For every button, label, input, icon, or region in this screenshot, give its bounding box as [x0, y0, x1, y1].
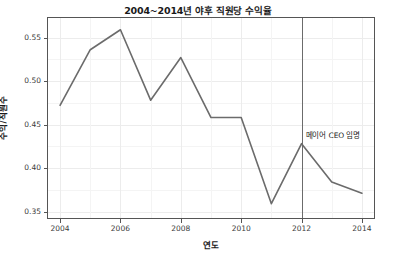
- y-axis-tick-label: 0.40: [24, 163, 41, 172]
- x-axis-tick-mark: [60, 219, 61, 223]
- y-axis-tick-label: 0.50: [24, 76, 41, 85]
- y-axis-tick-mark: [44, 212, 48, 213]
- y-axis-tick-mark: [44, 38, 48, 39]
- chart-title: 2004~2014년 야후 직원당 수익율: [0, 3, 396, 17]
- x-axis-title: 연도: [47, 238, 375, 250]
- y-axis-tick-mark: [44, 168, 48, 169]
- reference-vline: [302, 18, 303, 218]
- y-axis-tick-label: 0.55: [24, 33, 41, 42]
- chart-screenshot: 2004~2014년 야후 직원당 수익율 메이어 CEO 임명 0.350.4…: [0, 0, 396, 260]
- x-axis-tick-label: 2006: [111, 224, 130, 233]
- x-axis-tick-label: 2014: [352, 224, 371, 233]
- y-axis-tick-label: 0.35: [24, 207, 41, 216]
- plot-area: 메이어 CEO 임명: [48, 18, 374, 218]
- x-axis-tick-label: 2004: [51, 224, 70, 233]
- y-axis-tick-label: 0.45: [24, 120, 41, 129]
- y-axis-tick-mark: [44, 81, 48, 82]
- series-polyline: [60, 30, 362, 204]
- x-axis-tick-mark: [181, 219, 182, 223]
- x-axis-tick-label: 2010: [232, 224, 251, 233]
- y-axis-tick-mark: [44, 125, 48, 126]
- x-axis-tick-label: 2012: [292, 224, 311, 233]
- data-line-series: [48, 18, 374, 218]
- x-axis-tick-mark: [241, 219, 242, 223]
- x-axis-tick-mark: [120, 219, 121, 223]
- plot-panel: 메이어 CEO 임명: [47, 17, 375, 219]
- x-axis-tick-mark: [302, 219, 303, 223]
- y-axis-title: 수익/직원수: [0, 96, 8, 139]
- x-axis-tick-mark: [362, 219, 363, 223]
- x-axis-tick-label: 2008: [171, 224, 190, 233]
- chart-annotation-label: 메이어 CEO 임명: [306, 129, 361, 140]
